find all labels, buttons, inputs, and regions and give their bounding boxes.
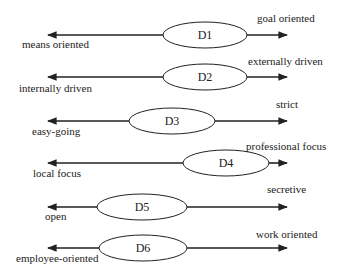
- right-pole-label: secretive: [267, 183, 306, 195]
- dimension-id-label: D1: [198, 28, 213, 42]
- dimension-d4: D4local focusprofessional focus: [33, 140, 326, 179]
- right-pole-label: goal oriented: [257, 12, 315, 24]
- left-pole-label: employee-oriented: [16, 252, 99, 264]
- left-pole-label: open: [45, 210, 67, 222]
- dimension-id-label: D4: [219, 156, 234, 170]
- left-pole-label: local focus: [33, 167, 81, 179]
- right-pole-label: externally driven: [248, 55, 323, 67]
- dimension-id-label: D2: [198, 70, 213, 84]
- left-pole-label: internally driven: [19, 82, 93, 94]
- dimension-id-label: D3: [165, 114, 180, 128]
- diagram-canvas: D1means orientedgoal orientedD2internall…: [0, 0, 343, 277]
- dimension-d3: D3easy-goingstrict: [32, 98, 298, 137]
- diagram-svg: D1means orientedgoal orientedD2internall…: [0, 0, 343, 277]
- left-pole-label: easy-going: [32, 125, 81, 137]
- dimension-id-label: D5: [135, 200, 150, 214]
- dimension-d6: D6employee-orientedwork oriented: [16, 228, 318, 264]
- dimension-d2: D2internally drivenexternally driven: [19, 55, 323, 94]
- right-pole-label: professional focus: [246, 140, 326, 152]
- dimension-d5: D5opensecretive: [45, 183, 306, 222]
- right-pole-label: strict: [276, 98, 298, 110]
- right-pole-label: work oriented: [256, 228, 318, 240]
- left-pole-label: means oriented: [22, 38, 89, 50]
- dimension-id-label: D6: [136, 241, 151, 255]
- dimension-d1: D1means orientedgoal oriented: [22, 12, 315, 50]
